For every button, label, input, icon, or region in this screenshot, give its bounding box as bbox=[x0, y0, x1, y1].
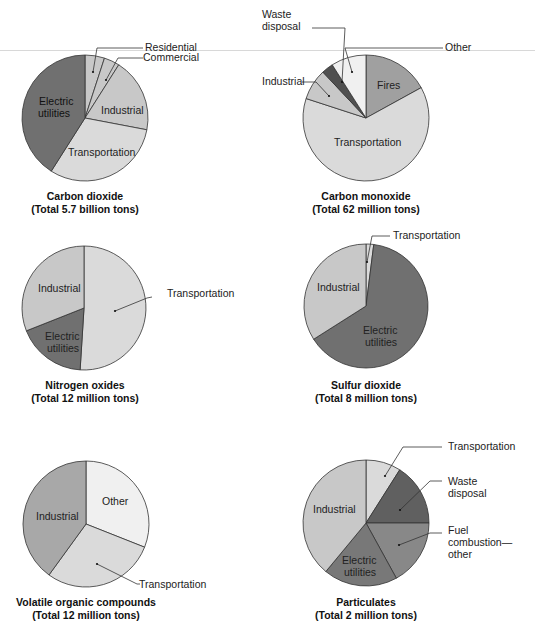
label-particulates-fuel-3: other bbox=[448, 548, 472, 560]
label-co2-transportation: Transportation bbox=[68, 146, 135, 158]
label-particulates-electric-1: Electric bbox=[342, 554, 376, 566]
label-co-transportation: Transportation bbox=[334, 136, 401, 148]
pie-slice-transportation bbox=[80, 246, 146, 370]
label-co2-industrial: Industrial bbox=[101, 104, 144, 116]
label-co-industrial: Industrial bbox=[262, 75, 305, 87]
subtitle-voc: (Total 12 million tons) bbox=[32, 609, 140, 621]
title-co: Carbon monoxide bbox=[321, 190, 410, 202]
label-co2-electric-1: Electric bbox=[39, 95, 73, 107]
title-voc: Volatile organic compounds bbox=[16, 596, 156, 608]
label-voc-transportation: Transportation bbox=[139, 578, 206, 590]
label-particulates-waste-2: disposal bbox=[448, 487, 487, 499]
title-so2: Sulfur dioxide bbox=[331, 379, 401, 391]
subtitle-co2: (Total 5.7 billion tons) bbox=[31, 203, 139, 215]
label-particulates-fuel-2: combustion— bbox=[448, 536, 513, 548]
subtitle-so2: (Total 8 million tons) bbox=[315, 392, 417, 404]
label-particulates-transportation: Transportation bbox=[448, 440, 515, 452]
pie-chart-figure: Residential Commercial Industrial Transp… bbox=[0, 0, 535, 633]
subtitle-particulates: (Total 2 million tons) bbox=[315, 609, 417, 621]
label-nox-electric-2: utilities bbox=[47, 342, 79, 354]
subtitle-co: (Total 62 million tons) bbox=[312, 203, 420, 215]
label-co-other: Other bbox=[445, 41, 472, 53]
pie-nitrogen-oxides bbox=[22, 246, 146, 370]
label-particulates-waste-1: Waste bbox=[448, 475, 478, 487]
label-particulates-fuel-1: Fuel bbox=[448, 524, 468, 536]
label-voc-industrial: Industrial bbox=[36, 510, 79, 522]
subtitle-nox: (Total 12 million tons) bbox=[31, 392, 139, 404]
label-co2-commercial: Commercial bbox=[143, 51, 199, 63]
pie-volatile-organic-compounds bbox=[23, 461, 149, 587]
label-co-waste-1: Waste bbox=[262, 8, 292, 20]
label-so2-electric-1: Electric bbox=[363, 324, 397, 336]
label-nox-transportation: Transportation bbox=[167, 287, 234, 299]
label-nox-electric-1: Electric bbox=[45, 330, 79, 342]
label-so2-electric-2: utilities bbox=[365, 336, 397, 348]
label-co2-electric-2: utilities bbox=[38, 107, 70, 119]
pie-sulfur-dioxide bbox=[304, 244, 428, 368]
label-particulates-industrial: Industrial bbox=[313, 503, 356, 515]
title-nox: Nitrogen oxides bbox=[45, 379, 125, 391]
label-nox-industrial: Industrial bbox=[38, 282, 81, 294]
pie-carbon-monoxide bbox=[303, 55, 429, 181]
label-co-fires: Fires bbox=[377, 79, 400, 91]
label-co-waste-2: disposal bbox=[262, 20, 301, 32]
label-voc-other: Other bbox=[102, 495, 129, 507]
label-particulates-electric-2: utilities bbox=[344, 566, 376, 578]
label-so2-industrial: Industrial bbox=[317, 281, 360, 293]
label-so2-transportation: Transportation bbox=[393, 229, 460, 241]
title-co2: Carbon dioxide bbox=[47, 190, 124, 202]
title-particulates: Particulates bbox=[336, 596, 396, 608]
